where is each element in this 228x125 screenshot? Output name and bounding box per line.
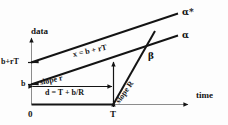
x-tick-label-zero: 0 bbox=[28, 110, 33, 119]
line-end-label-alpha: α bbox=[182, 31, 189, 40]
x-tick-label-T: T bbox=[110, 110, 116, 119]
line-end-label-alpha-star: α* bbox=[182, 8, 194, 17]
annotation-label-d: d = T + b/R bbox=[45, 89, 84, 97]
line-alpha-star bbox=[31, 14, 178, 63]
line-end-label-beta: β bbox=[148, 52, 154, 61]
diagram-figure: data time b+rT b 0 T x = b + rT slope r … bbox=[0, 0, 228, 125]
y-tick-label-b: b bbox=[21, 80, 25, 88]
y-axis-label: data bbox=[31, 27, 48, 36]
diagram-canvas bbox=[0, 0, 228, 125]
y-tick-label-b-plus-rT: b+rT bbox=[1, 58, 19, 66]
x-axis-label: time bbox=[196, 91, 213, 100]
